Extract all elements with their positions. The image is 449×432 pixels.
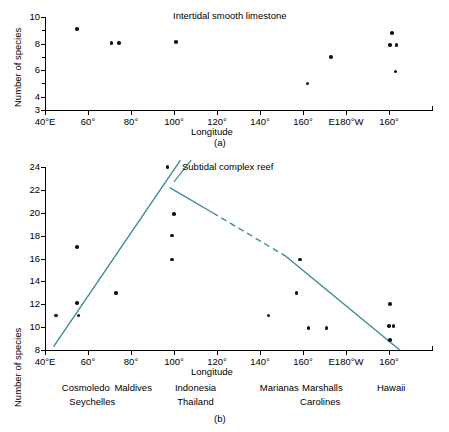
y-tick	[41, 70, 45, 71]
y-tick-label: 18	[15, 230, 40, 241]
x-tick-label: 160°	[359, 116, 419, 127]
data-point	[329, 55, 333, 59]
data-point	[298, 258, 302, 262]
panel-b-tag: (b)	[214, 413, 226, 424]
x-axis-line	[45, 350, 432, 351]
x-tick	[174, 351, 175, 355]
data-point	[388, 302, 392, 306]
y-tick-label: 3	[15, 104, 40, 115]
trend-line-ascending	[54, 160, 181, 346]
data-point	[75, 27, 79, 31]
x-tick	[131, 351, 132, 355]
panel-a-x-axis-label: Longitude	[191, 126, 233, 137]
trend-line-descending-solid-right	[286, 256, 400, 350]
x-tick	[346, 351, 347, 355]
data-point	[172, 212, 176, 216]
y-tick	[41, 281, 45, 282]
y-tick-label: 14	[15, 275, 40, 286]
y-axis-line	[45, 17, 46, 110]
x-tick-label: 160°	[359, 356, 419, 367]
y-tick-label: 20	[15, 207, 40, 218]
y-tick	[41, 236, 45, 237]
trend-line-descending-dashed	[213, 213, 286, 256]
panel-a-title: Intertidal smooth limestone	[173, 10, 287, 21]
data-point	[387, 324, 391, 328]
y-tick-label: 22	[15, 184, 40, 195]
y-tick	[41, 259, 45, 260]
y-tick	[41, 213, 45, 214]
data-point	[306, 82, 310, 86]
data-point	[117, 41, 121, 45]
panel-b-subtidal: Subtidal complex reef Number of species …	[0, 145, 449, 432]
x-tick	[260, 351, 261, 355]
data-point	[75, 245, 79, 249]
data-point	[295, 291, 299, 295]
y-tick-label: 8	[15, 344, 40, 355]
data-point	[392, 324, 396, 328]
x-tick	[217, 111, 218, 115]
place-label: Seychelles	[47, 396, 137, 407]
x-tick	[260, 111, 261, 115]
panel-b-title: Subtidal complex reef	[182, 161, 273, 172]
data-point	[114, 291, 118, 295]
x-tick	[389, 351, 390, 355]
panel-b-y-axis-label: Number of species	[12, 328, 23, 407]
data-point	[170, 234, 174, 238]
y-axis-line	[45, 167, 46, 350]
y-tick-label: 24	[15, 161, 40, 172]
y-tick	[41, 190, 45, 191]
y-tick	[41, 17, 45, 18]
y-tick-label: 10	[15, 321, 40, 332]
x-tick	[303, 351, 304, 355]
data-point	[110, 41, 114, 45]
x-tick	[303, 111, 304, 115]
x-tick	[88, 111, 89, 115]
data-point	[390, 31, 394, 35]
x-tick	[45, 111, 46, 115]
place-label: Indonesia	[151, 382, 241, 393]
y-tick-label: 12	[15, 298, 40, 309]
panel-a-intertidal: Intertidal smooth limestone Number of sp…	[0, 0, 449, 145]
x-axis-end-cap	[432, 106, 433, 111]
y-tick-label: 10	[15, 11, 40, 22]
x-tick	[217, 351, 218, 355]
data-point	[166, 165, 170, 169]
trend-line-descending-solid-left	[170, 188, 213, 213]
y-minor-tick	[42, 83, 45, 84]
y-tick	[41, 97, 45, 98]
y-tick-label: 16	[15, 253, 40, 264]
x-tick	[174, 111, 175, 115]
y-tick	[41, 327, 45, 328]
y-tick	[41, 167, 45, 168]
y-tick-label: 8	[15, 38, 40, 49]
x-axis-end-cap	[432, 346, 433, 351]
data-point	[395, 43, 399, 47]
y-tick	[41, 44, 45, 45]
x-tick	[131, 111, 132, 115]
data-point	[174, 40, 178, 44]
place-label: Hawaii	[346, 382, 436, 393]
data-point	[388, 43, 392, 47]
x-tick	[346, 111, 347, 115]
y-tick	[41, 304, 45, 305]
x-tick	[389, 111, 390, 115]
data-point	[394, 70, 398, 74]
panel-b-x-axis-label: Longitude	[191, 366, 233, 377]
x-tick	[45, 351, 46, 355]
data-point	[75, 301, 79, 305]
x-axis-line	[45, 110, 432, 111]
y-tick-label: 6	[15, 64, 40, 75]
y-tick-label: 4	[15, 91, 40, 102]
y-minor-tick	[42, 57, 45, 58]
place-label: Thailand	[151, 396, 241, 407]
y-minor-tick	[42, 30, 45, 31]
place-label: Carolines	[275, 396, 365, 407]
x-tick	[88, 351, 89, 355]
data-point	[388, 338, 392, 342]
